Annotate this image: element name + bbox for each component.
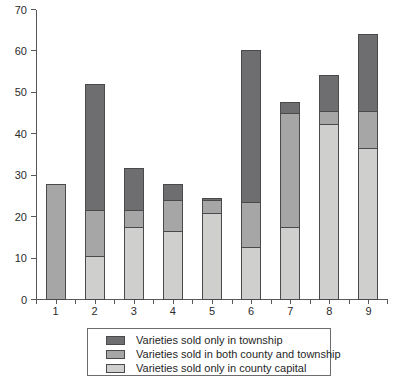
x-tick-boundary (114, 300, 115, 304)
x-tick-boundary (36, 300, 37, 304)
bar-segment-township-only (241, 50, 261, 203)
x-tick-label: 6 (248, 306, 254, 317)
y-tick: 30 (31, 175, 36, 176)
x-tick-label: 8 (326, 306, 332, 317)
bar-segment-township-only (280, 102, 300, 115)
y-tick-label: 10 (15, 253, 27, 264)
y-tick-label: 60 (15, 45, 27, 56)
bar-segment-township-only (124, 168, 144, 211)
chart-legend: Varieties sold only in township Varietie… (87, 328, 331, 376)
bar-column (358, 35, 378, 300)
legend-label-township-only: Varieties sold only in township (136, 335, 283, 346)
bar-column (319, 76, 339, 300)
x-tick (212, 300, 213, 304)
legend-item-both-county-township: Varieties sold in both county and townsh… (106, 348, 341, 361)
y-tick: 70 (31, 9, 36, 10)
bar-segment-county-capital-only (163, 231, 183, 300)
y-tick-label: 0 (21, 294, 27, 305)
x-tick-label: 3 (131, 306, 137, 317)
bar-segment-both-county-township (46, 184, 66, 300)
bar-segment-county-capital-only (124, 227, 144, 301)
x-tick (134, 300, 135, 304)
bar-segment-township-only (319, 75, 339, 111)
plot-area: 010203040506070 (36, 10, 388, 300)
x-tick (251, 300, 252, 304)
y-tick-label: 50 (15, 87, 27, 98)
x-tick (368, 300, 369, 304)
bar-segment-township-only (163, 184, 183, 201)
bar-segment-county-capital-only (202, 213, 222, 300)
x-tick-label: 7 (287, 306, 293, 317)
bar-segment-both-county-township (241, 202, 261, 248)
x-tick-boundary (310, 300, 311, 304)
bar-segment-township-only (358, 34, 378, 112)
x-tick (56, 300, 57, 304)
x-tick-boundary (232, 300, 233, 304)
x-tick-boundary (75, 300, 76, 304)
bar-column (163, 185, 183, 300)
x-tick-boundary (271, 300, 272, 304)
y-tick-label: 20 (15, 211, 27, 222)
bar-segment-county-capital-only (241, 247, 261, 300)
x-tick-label: 2 (92, 306, 98, 317)
x-tick (290, 300, 291, 304)
legend-label-both-county-township: Varieties sold in both county and townsh… (136, 349, 341, 360)
y-tick: 20 (31, 216, 36, 217)
y-tick: 10 (31, 258, 36, 259)
stacked-bar-chart: 010203040506070 123456789 Varieties sold… (0, 0, 397, 390)
bar-column (280, 103, 300, 300)
x-tick-boundary (153, 300, 154, 304)
x-tick-label: 4 (170, 306, 176, 317)
y-tick-label: 70 (15, 4, 27, 15)
legend-swatch-township-only (106, 336, 125, 345)
bar-segment-both-county-township (280, 113, 300, 227)
bar-segment-both-county-township (124, 210, 144, 228)
legend-label-county-capital-only: Varieties sold only in county capital (136, 363, 306, 374)
x-tick-boundary (387, 300, 388, 304)
bar-column (46, 185, 66, 300)
bar-segment-county-capital-only (358, 148, 378, 300)
y-tick: 40 (31, 133, 36, 134)
bar-segment-county-capital-only (85, 256, 105, 301)
legend-item-county-capital-only: Varieties sold only in county capital (106, 362, 306, 375)
bar-segment-both-county-township (163, 200, 183, 233)
bar-segment-both-county-township (202, 200, 222, 213)
y-tick-label: 40 (15, 128, 27, 139)
bar-segment-county-capital-only (319, 124, 339, 300)
bar-segment-township-only (85, 84, 105, 211)
y-tick-label: 30 (15, 170, 27, 181)
x-tick (329, 300, 330, 304)
x-tick-label: 5 (209, 306, 215, 317)
legend-swatch-both-county-township (106, 350, 125, 359)
x-tick (173, 300, 174, 304)
y-tick: 50 (31, 92, 36, 93)
bar-segment-both-county-township (358, 111, 378, 149)
y-axis-line (36, 10, 37, 300)
bar-column (85, 85, 105, 300)
bar-column (124, 169, 144, 300)
x-tick-label: 1 (52, 306, 58, 317)
x-tick-boundary (192, 300, 193, 304)
bar-segment-both-county-township (319, 111, 339, 125)
x-tick-boundary (349, 300, 350, 304)
bar-segment-both-county-township (85, 210, 105, 257)
bar-segment-county-capital-only (280, 227, 300, 301)
x-tick (95, 300, 96, 304)
x-tick-label: 9 (365, 306, 371, 317)
bar-segment-township-only (202, 198, 222, 202)
bar-column (241, 51, 261, 300)
y-tick: 60 (31, 50, 36, 51)
legend-swatch-county-capital-only (106, 364, 125, 373)
bar-column (202, 199, 222, 301)
legend-item-township-only: Varieties sold only in township (106, 334, 283, 347)
